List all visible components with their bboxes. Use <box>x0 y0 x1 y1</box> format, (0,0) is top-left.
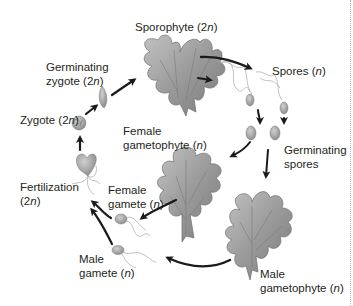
label-female-gametophyte: Female gametophyte (n) <box>123 124 207 152</box>
arrow-spore-to-germinating-left <box>258 110 260 122</box>
label-male-gametophyte: Male gametophyte (n) <box>260 267 344 295</box>
label-sporophyte: Sporophyte (2n) <box>135 20 218 34</box>
female-gametophyte-illustration <box>157 147 221 242</box>
page-edge-dotted-line <box>350 0 351 306</box>
germinating-spores-illustration <box>246 126 280 140</box>
arrow-zygote-to-sporophyte <box>112 80 134 95</box>
label-male-gamete: Male gamete (n) <box>79 252 135 280</box>
life-cycle-diagram: Sporophyte (2n) Spores (n) Germinating s… <box>0 0 353 306</box>
arrow-to-male-gamete <box>168 258 230 267</box>
label-zygote: Zygote (2n) <box>20 113 79 127</box>
label-germinating-zygote: Germinating zygote (2n) <box>46 60 109 88</box>
label-fertilization: Fertilization (2n) <box>20 180 79 208</box>
arrow-to-female-gametophyte <box>232 142 250 156</box>
label-female-gamete: Female gamete (n) <box>108 183 164 211</box>
sporophyte-illustration <box>144 35 225 116</box>
arrow-to-male-gametophyte <box>266 150 268 176</box>
label-germinating-spores: Germinating spores <box>284 143 347 171</box>
label-spores: Spores (n) <box>272 64 326 78</box>
arrow-male-gamete-to-fertilization <box>92 210 112 244</box>
arrow-zygote-to-germinating-zygote <box>86 106 96 114</box>
germinating-zygote-illustration <box>99 86 107 108</box>
